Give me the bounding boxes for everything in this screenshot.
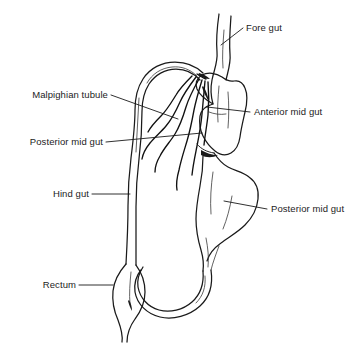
fore-gut-shape — [211, 14, 231, 104]
hind-gut-loop-shape — [135, 267, 212, 318]
posterior-mid-gut-shape — [196, 153, 258, 271]
gut-anatomy-illustration — [0, 0, 360, 343]
malpighian-tubules-shape — [142, 73, 210, 190]
label-posterior-mid-gut-left: Posterior mid gut — [30, 137, 103, 147]
anatomy-diagram: Fore gut Anterior mid gut Posterior mid … — [0, 0, 360, 343]
label-malpighian-tubule: Malpighian tubule — [32, 90, 108, 100]
label-fore-gut: Fore gut — [246, 23, 282, 33]
label-rectum: Rectum — [43, 280, 76, 290]
label-anterior-mid-gut: Anterior mid gut — [254, 107, 322, 117]
rectum-shape — [113, 264, 145, 342]
label-posterior-mid-gut-right: Posterior mid gut — [271, 204, 344, 214]
label-hind-gut: Hind gut — [53, 189, 89, 199]
